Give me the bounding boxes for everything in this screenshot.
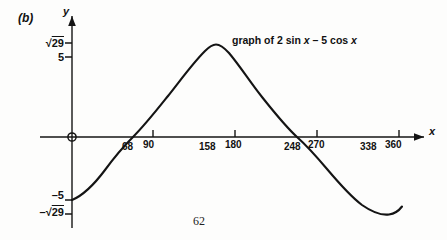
x-tick-label-180: 180 <box>225 140 242 150</box>
x-tick-label-248: 248 <box>284 142 301 152</box>
x-tick-label-360: 360 <box>385 140 402 150</box>
x-tick-label-68: 68 <box>122 142 133 152</box>
y-tick-label-sqrt29: √29 <box>16 38 64 49</box>
caption-mid: – 5 cos <box>310 34 351 46</box>
y-axis-arrow-icon <box>68 16 76 26</box>
x-tick-label-90: 90 <box>143 140 154 150</box>
curve-caption: graph of 2 sin x – 5 cos x <box>232 35 357 46</box>
figure-page: (b) y x √29 5 –5 –√29 68 90 158 180 248 … <box>0 0 447 240</box>
radicand-29-neg: 29 <box>52 206 64 218</box>
part-label: (b) <box>18 12 33 24</box>
y-axis-label: y <box>63 6 69 17</box>
x-axis-label: x <box>429 126 435 137</box>
radicand-29: 29 <box>52 37 64 49</box>
x-tick-label-270: 270 <box>308 140 325 150</box>
x-tick-label-158: 158 <box>199 142 216 152</box>
sinusoid-curve <box>72 45 402 215</box>
y-tick-label-five: 5 <box>16 52 64 63</box>
x-axis-arrow-icon <box>414 133 424 141</box>
caption-var-x2: x <box>351 34 357 46</box>
caption-prefix: graph of 2 sin <box>232 34 304 46</box>
page-number: 62 <box>193 215 205 227</box>
y-tick-label-neg-five: –5 <box>16 190 64 201</box>
y-tick-label-neg-sqrt29: –√29 <box>10 207 64 218</box>
graph-plot <box>0 0 447 240</box>
x-tick-label-338: 338 <box>360 142 377 152</box>
minus-sign: – <box>40 206 46 218</box>
